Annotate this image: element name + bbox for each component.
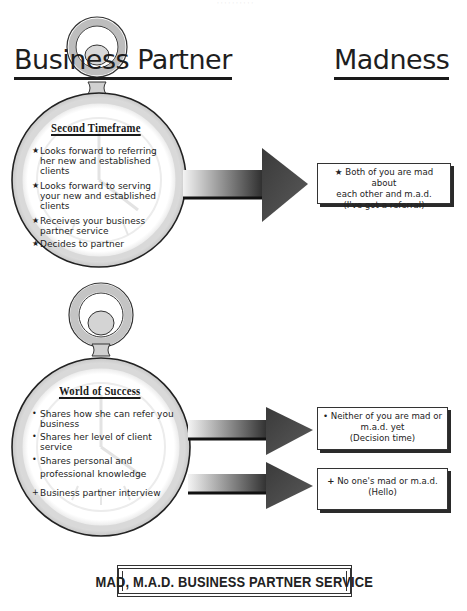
star-bullet-icon: ★ — [32, 146, 40, 156]
star-bullet-icon: ★ — [32, 216, 40, 226]
outcome-line-2: (Hello) — [322, 487, 443, 498]
outcome-box-hello: + No one's mad or m.a.d. (Hello) — [317, 468, 448, 510]
outcome-box-decision: • Neither of you are mad or m.a.d. yet (… — [317, 407, 448, 450]
footer-banner: MAD, M.A.D. BUSINESS PARTNER SERVICE — [117, 565, 352, 597]
plus-bullet-icon: + — [32, 488, 40, 498]
star-bullet-icon: ★ — [335, 167, 343, 177]
banner-title: MAD, M.A.D. BUSINESS PARTNER SERVICE — [96, 573, 373, 590]
dot-bullet-icon: • — [32, 409, 40, 419]
outcome-line-2: m.a.d. yet — [322, 422, 443, 433]
watch-2-heading: World of Success — [59, 383, 141, 399]
outcome-text: Both of you are mad about — [345, 167, 433, 188]
arrow-icon-2 — [188, 407, 313, 455]
list-item-text: Receives your business partner service — [40, 216, 174, 236]
outcome-line-3: (Decision time) — [322, 433, 443, 444]
watch-1-list: ★ Looks forward to referring her new and… — [32, 146, 174, 254]
arrow-icon-3 — [188, 462, 313, 509]
list-item-text: Shares personal and professional knowled… — [40, 455, 180, 481]
list-item-text: Looks forward to referring her new and e… — [40, 146, 174, 176]
outcome-box-referral: ★ Both of you are mad about each other a… — [317, 163, 451, 204]
right-column-title: Madness — [334, 45, 449, 75]
dot-bullet-icon: • — [32, 455, 40, 465]
list-item: • Shares personal and professional knowl… — [32, 455, 180, 481]
list-item-text: Business partner interview — [40, 488, 161, 498]
list-item: ★ Receives your business partner service — [32, 216, 174, 236]
diagram-graphics — [0, 0, 467, 611]
watch-2-list: • Shares how she can refer you business … — [32, 409, 180, 503]
list-item-text: Shares how she can refer you business — [40, 409, 180, 429]
outcome-line-1: ★ Both of you are mad about — [322, 167, 446, 189]
left-column-title-text: Business Partner — [14, 44, 232, 75]
star-bullet-icon: ★ — [32, 239, 40, 249]
outcome-line-2: each other and m.a.d. — [322, 189, 446, 200]
outcome-line-1: + No one's mad or m.a.d. — [322, 476, 443, 487]
list-item: ★ Looks forward to serving your new and … — [32, 181, 174, 211]
list-item-text: Decides to partner — [40, 239, 124, 249]
arrow-icon-1 — [183, 148, 308, 222]
dot-bullet-icon: • — [323, 411, 328, 421]
star-bullet-icon: ★ — [32, 181, 40, 191]
list-item: ★ Looks forward to referring her new and… — [32, 146, 174, 176]
list-item: ★ Decides to partner — [32, 239, 174, 249]
right-column-title-text: Madness — [334, 44, 449, 75]
dot-bullet-icon: • — [32, 432, 40, 442]
outcome-line-3: (I've got a referral) — [322, 200, 446, 211]
outcome-text: Neither of you are mad or — [331, 411, 442, 421]
list-item: • Shares how she can refer you business — [32, 409, 180, 429]
left-title-underline — [14, 77, 232, 80]
list-item-text: Shares her level of client service — [40, 432, 180, 452]
list-item: • Shares her level of client service — [32, 432, 180, 452]
watch-1-heading: Second Timeframe — [51, 120, 141, 136]
outcome-line-1: • Neither of you are mad or — [322, 411, 443, 422]
outcome-text: No one's mad or m.a.d. — [337, 476, 438, 486]
list-item-text: Looks forward to serving your new and es… — [40, 181, 174, 211]
left-column-title: Business Partner — [14, 45, 232, 75]
plus-bullet-icon: + — [327, 476, 334, 486]
right-title-underline — [334, 77, 449, 80]
list-item: + Business partner interview — [32, 488, 180, 498]
